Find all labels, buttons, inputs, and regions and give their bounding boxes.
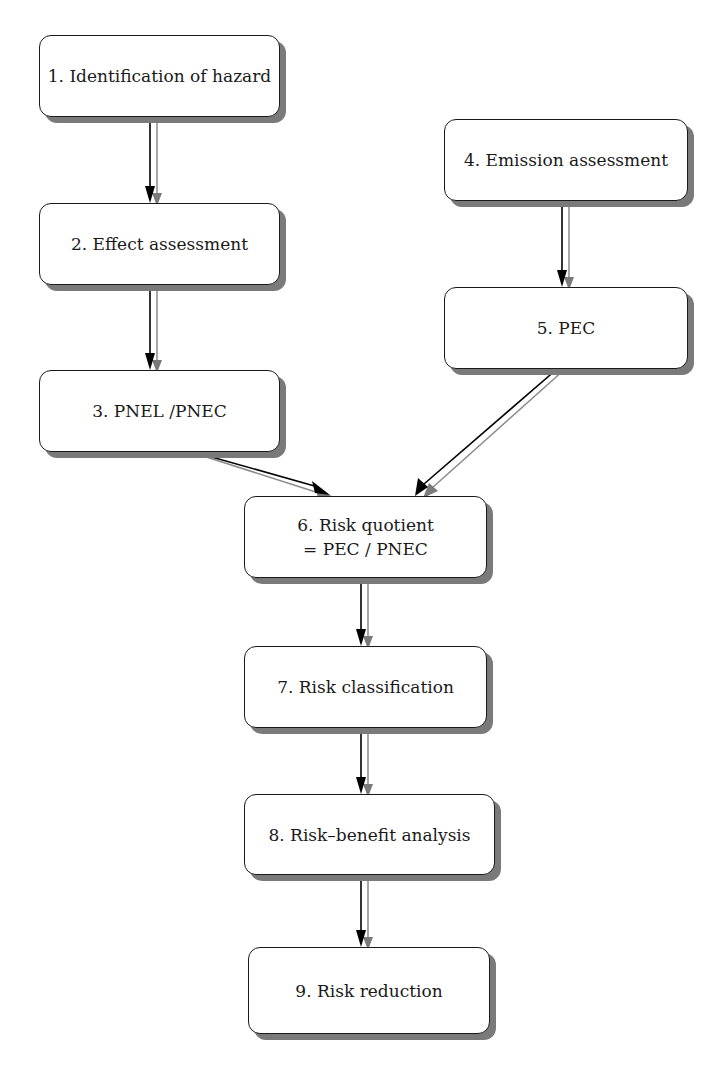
arrow-3-to-6	[194, 452, 334, 499]
node-label: 5. PEC	[537, 316, 595, 340]
node-label: 3. PNEL /PNEC	[92, 399, 227, 423]
arrow-1-to-2	[145, 117, 162, 206]
node-label: 7. Risk classification	[277, 675, 454, 699]
node-risk-benefit-analysis: 8. Risk–benefit analysis	[244, 794, 495, 875]
arrow-5-to-6	[415, 369, 564, 498]
node-risk-reduction: 9. Risk reduction	[248, 947, 490, 1034]
arrow-6-to-7	[356, 578, 373, 649]
node-effect-assessment: 2. Effect assessment	[39, 203, 280, 285]
node-formula: = PEC / PNEC	[303, 537, 428, 561]
node-emission-assessment: 4. Emission assessment	[444, 119, 688, 201]
arrow-8-to-9	[356, 875, 373, 950]
node-label: 2. Effect assessment	[71, 232, 248, 256]
node-label: 8. Risk–benefit analysis	[268, 823, 470, 847]
node-pnel-pnec: 3. PNEL /PNEC	[39, 370, 280, 452]
node-label: 9. Risk reduction	[295, 979, 442, 1003]
arrow-4-to-5	[557, 201, 574, 290]
arrow-2-to-3	[145, 285, 162, 373]
node-risk-quotient: 6. Risk quotient = PEC / PNEC	[244, 496, 487, 578]
arrow-7-to-8	[356, 728, 373, 797]
node-label: 1. Identification of hazard	[48, 64, 271, 88]
node-pec: 5. PEC	[444, 287, 688, 369]
node-label: 4. Emission assessment	[464, 148, 668, 172]
node-risk-classification: 7. Risk classification	[244, 646, 487, 728]
node-identification-of-hazard: 1. Identification of hazard	[39, 35, 280, 117]
node-label: 6. Risk quotient	[297, 513, 433, 537]
